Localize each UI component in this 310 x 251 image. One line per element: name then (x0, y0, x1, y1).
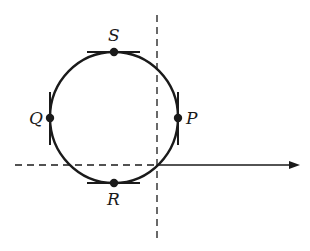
point-q (46, 114, 54, 122)
label-r: R (107, 191, 120, 208)
loop-circle (50, 52, 178, 183)
label-p: P (186, 110, 197, 127)
diagram-canvas: S Q P R (0, 0, 310, 251)
point-r (110, 179, 118, 187)
loop-diagram (0, 0, 310, 251)
arrowhead-icon (289, 161, 300, 169)
label-s: S (108, 27, 120, 44)
label-q: Q (29, 110, 43, 127)
point-s (110, 48, 118, 56)
point-p (174, 114, 182, 122)
